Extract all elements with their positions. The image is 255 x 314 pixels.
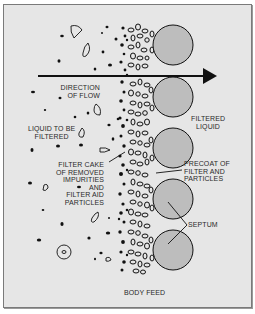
label-line: FILTER CAKE xyxy=(56,161,104,169)
liquid-to-be-filtered-label: LIQUID TO BE FILTERED xyxy=(28,125,75,140)
septum-circles xyxy=(153,25,193,270)
filter-cake-band xyxy=(118,24,154,274)
label-line: OF REMOVED xyxy=(56,169,104,177)
septum-circle-2 xyxy=(153,77,193,117)
filter-cake-leader xyxy=(109,152,125,162)
septum-label: SEPTUM xyxy=(188,221,218,229)
label-line: PARTICLES xyxy=(184,175,230,183)
arrow-right-icon xyxy=(38,68,217,84)
septum-circle-1 xyxy=(153,25,193,65)
label-line: FILTERED xyxy=(28,133,75,141)
label-line: IMPURITIES xyxy=(56,176,104,184)
body-feed-label: BODY FEED xyxy=(124,289,165,297)
label-line: OF FLOW xyxy=(61,92,100,100)
precoat-leader xyxy=(156,170,182,173)
precoat-label: PRECOAT OF FILTER AND PARTICLES xyxy=(184,160,230,183)
label-line: FILTER AND xyxy=(184,168,230,176)
label-line: FILTERED xyxy=(191,115,225,123)
septum-circle-4 xyxy=(153,179,193,219)
label-line: FILTER AID xyxy=(56,191,104,199)
body-feed-particles xyxy=(28,26,120,262)
filtration-diagram xyxy=(0,0,255,314)
label-line: LIQUID xyxy=(191,123,225,131)
filter-cake-label: FILTER CAKE OF REMOVED IMPURITIES AND FI… xyxy=(56,161,104,207)
filtered-liquid-label: FILTERED LIQUID xyxy=(191,115,225,130)
label-line: PRECOAT OF xyxy=(184,160,230,168)
label-line: DIRECTION xyxy=(61,84,100,92)
label-line: LIQUID TO BE xyxy=(28,125,75,133)
label-line: PARTICLES xyxy=(56,199,104,207)
label-line: AND xyxy=(56,184,104,192)
direction-of-flow-label: DIRECTION OF FLOW xyxy=(61,84,100,99)
septum-circle-5 xyxy=(153,230,193,270)
